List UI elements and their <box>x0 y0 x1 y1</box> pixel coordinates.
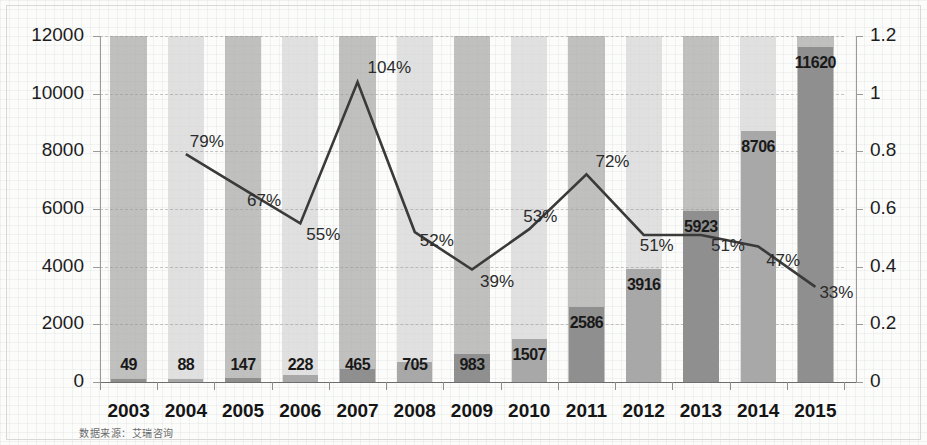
right-axis-tick <box>856 151 863 152</box>
left-axis-tick <box>93 267 100 268</box>
category-axis-tick <box>558 382 559 390</box>
category-axis-label: 2014 <box>730 400 787 422</box>
category-axis-label: 2015 <box>787 400 844 422</box>
category-axis-label: 2006 <box>272 400 329 422</box>
left-axis-tick-label: 8000 <box>42 139 84 161</box>
category-axis-label: 2008 <box>386 400 443 422</box>
source-note: 数据来源：艾瑞咨询 <box>79 425 174 440</box>
category-axis-tick <box>672 382 673 390</box>
right-axis-tick-label: 0.8 <box>870 139 896 161</box>
left-axis-tick <box>93 209 100 210</box>
category-axis-tick <box>501 382 502 390</box>
growth-rate-label: 33% <box>819 283 853 303</box>
category-axis-tick <box>844 382 845 390</box>
category-axis-tick <box>443 382 444 390</box>
growth-rate-line <box>100 36 844 382</box>
category-axis-tick <box>100 382 101 390</box>
category-axis-label: 2007 <box>329 400 386 422</box>
growth-rate-label: 55% <box>306 225 340 245</box>
right-axis-tick-label: 0.4 <box>870 255 896 277</box>
right-axis-tick <box>856 382 863 383</box>
category-axis-tick <box>787 382 788 390</box>
growth-rate-label: 51% <box>640 236 674 256</box>
left-axis-tick <box>93 94 100 95</box>
category-axis-tick <box>730 382 731 390</box>
category-axis-tick <box>386 382 387 390</box>
left-axis-tick-label: 0 <box>73 370 84 392</box>
growth-rate-label: 47% <box>766 251 800 271</box>
category-axis-tick <box>157 382 158 390</box>
plot-area: 4988147228465705983150725863916592387061… <box>100 36 844 382</box>
category-axis-tick <box>272 382 273 390</box>
category-axis-label: 2011 <box>558 400 615 422</box>
chart-screenshot: 4988147228465705983150725863916592387061… <box>0 0 927 445</box>
left-axis-tick-label: 6000 <box>42 197 84 219</box>
growth-rate-label: 104% <box>368 58 411 78</box>
left-axis-tick-label: 2000 <box>42 312 84 334</box>
growth-rate-label: 53% <box>523 207 557 227</box>
right-axis-tick-label: 1 <box>870 82 881 104</box>
category-axis-label: 2009 <box>443 400 500 422</box>
right-axis-tick <box>856 324 863 325</box>
left-axis-line <box>100 36 101 382</box>
category-axis-label: 2010 <box>501 400 558 422</box>
right-axis-tick <box>856 209 863 210</box>
right-axis-tick-label: 0.2 <box>870 312 896 334</box>
growth-rate-label: 79% <box>190 132 224 152</box>
growth-rate-label: 72% <box>595 152 629 172</box>
left-axis-tick-label: 12000 <box>31 24 84 46</box>
right-axis-tick <box>856 94 863 95</box>
right-axis-tick <box>856 267 863 268</box>
left-axis-tick <box>93 382 100 383</box>
left-axis-tick-label: 10000 <box>31 82 84 104</box>
category-axis-label: 2013 <box>672 400 729 422</box>
category-axis-label: 2012 <box>615 400 672 422</box>
left-axis-tick-label: 4000 <box>42 255 84 277</box>
left-axis-tick <box>93 324 100 325</box>
right-axis-tick-label: 0 <box>870 370 881 392</box>
left-axis-tick <box>93 151 100 152</box>
category-axis-line <box>100 382 856 383</box>
growth-rate-label: 67% <box>247 191 281 211</box>
right-axis-tick-label: 0.6 <box>870 197 896 219</box>
right-axis-tick <box>856 36 863 37</box>
left-axis-tick <box>93 36 100 37</box>
category-axis-label: 2003 <box>100 400 157 422</box>
category-axis-tick <box>615 382 616 390</box>
growth-rate-label: 39% <box>480 272 514 292</box>
category-axis-tick <box>329 382 330 390</box>
category-axis-label: 2005 <box>214 400 271 422</box>
growth-rate-label: 51% <box>711 236 745 256</box>
category-axis-tick <box>214 382 215 390</box>
category-axis-label: 2004 <box>157 400 214 422</box>
right-axis-tick-label: 1.2 <box>870 24 896 46</box>
growth-rate-label: 52% <box>420 231 454 251</box>
